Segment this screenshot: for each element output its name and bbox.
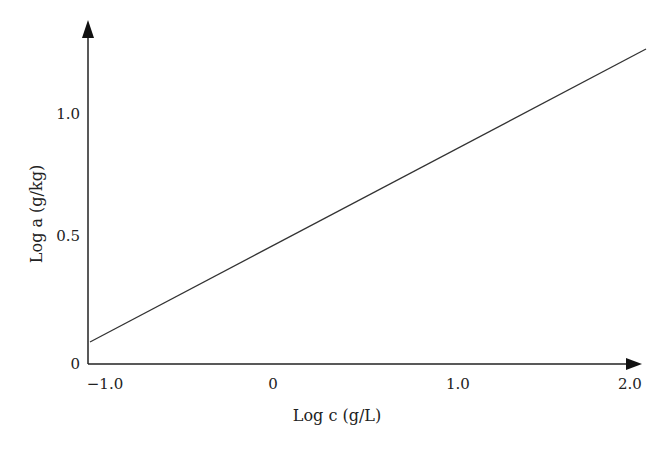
data-line bbox=[90, 49, 646, 342]
y-axis-label: Log a (g/kg) bbox=[27, 165, 46, 263]
x-tick-1: 1.0 bbox=[446, 375, 470, 393]
x-tick-neg1: −1.0 bbox=[87, 375, 123, 393]
y-tick-0.5: 0.5 bbox=[56, 227, 80, 245]
x-tick-2: 2.0 bbox=[618, 375, 642, 393]
y-axis-arrow-icon bbox=[82, 20, 94, 38]
x-tick-0: 0 bbox=[268, 375, 278, 393]
y-tick-0: 0 bbox=[70, 355, 80, 373]
y-tick-1.0: 1.0 bbox=[56, 105, 80, 123]
x-axis-label: Log c (g/L) bbox=[293, 406, 381, 425]
chart: 0 0.5 1.0 −1.0 0 1.0 2.0 Log c (g/L) Log… bbox=[0, 0, 665, 450]
x-axis-arrow-icon bbox=[626, 358, 642, 370]
